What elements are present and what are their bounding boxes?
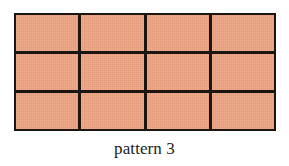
pattern-cell [81,93,143,129]
pattern-cell [212,15,274,51]
pattern-cell [81,15,143,51]
pattern-cell [212,54,274,90]
pattern-cell [147,54,209,90]
pattern-cell [16,15,78,51]
pattern-cell [212,93,274,129]
pattern-cell [147,93,209,129]
pattern-cell [16,93,78,129]
pattern-cell [16,54,78,90]
pattern-caption: pattern 3 [0,139,289,159]
pattern-grid [14,13,276,131]
pattern-cell [81,54,143,90]
pattern-cell [147,15,209,51]
pattern-figure: pattern 3 [0,0,289,166]
